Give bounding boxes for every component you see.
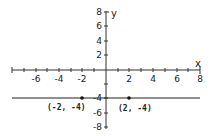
x-tick-labels: -6 -4 -2 2 4 6 8 [32,74,204,84]
svg-text:-4: -4 [55,74,64,84]
x-axis-label: x [195,58,201,69]
point-neg2-neg4 [80,96,84,100]
svg-text:-6: -6 [32,74,41,84]
point-2-neg4 [127,96,131,100]
point-label-2-neg4: (2, -4) [118,104,152,113]
svg-text:2: 2 [96,50,102,60]
svg-text:-8: -8 [93,122,102,132]
svg-text:4: 4 [96,36,102,46]
point-label-neg2-neg4: (-2, -4) [47,103,86,112]
svg-text:-6: -6 [93,108,102,118]
svg-text:2: 2 [126,74,132,84]
svg-text:6: 6 [174,74,180,84]
svg-text:-2: -2 [78,74,87,84]
coordinate-plane: -6 -4 -2 2 4 6 8 8 6 4 2 -4 -6 -8 y x (-… [0,0,213,136]
svg-text:8: 8 [197,74,203,84]
y-axis-label: y [111,8,117,19]
svg-text:8: 8 [96,7,102,17]
svg-text:6: 6 [96,21,102,31]
svg-text:4: 4 [150,74,156,84]
